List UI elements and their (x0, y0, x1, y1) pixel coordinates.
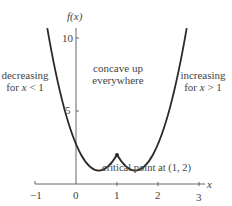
x-tick-label-3: 3 (196, 191, 202, 203)
annotation-decreasing: decreasing for x < 1 (0, 69, 50, 93)
concave-line2: everywhere (86, 74, 150, 86)
decreasing-for: for (6, 81, 22, 93)
x-tick-label-0: 0 (73, 189, 79, 201)
y-axis-label: f(x) (67, 10, 82, 22)
y-tick-label-10: 10 (62, 32, 73, 44)
increasing-line2: for x > 1 (175, 81, 231, 93)
y-label-f: f( (67, 10, 74, 22)
y-tick-label-5: 5 (65, 104, 71, 116)
increasing-line1: increasing (175, 69, 231, 81)
concave-line1: concave up (86, 62, 150, 74)
chart-canvas (0, 0, 232, 206)
annotation-concave: concave up everywhere (86, 62, 150, 86)
decreasing-line2: for x < 1 (0, 81, 50, 93)
critical-point-marker (115, 153, 119, 157)
x-tick-label-2: 2 (155, 189, 161, 201)
annotation-critical-point: critical point at (1, 2) (102, 162, 191, 174)
x-tick-label-neg1: −1 (30, 189, 42, 201)
decreasing-cond: < 1 (27, 81, 44, 93)
increasing-cond: > 1 (205, 81, 222, 93)
y-label-close: ) (79, 10, 83, 22)
x-tick-label-1: 1 (114, 189, 120, 201)
decreasing-line1: decreasing (0, 69, 50, 81)
x-axis-label: x (207, 178, 212, 190)
increasing-for: for (184, 81, 200, 93)
annotation-increasing: increasing for x > 1 (175, 69, 231, 93)
function-curve (47, 28, 186, 170)
